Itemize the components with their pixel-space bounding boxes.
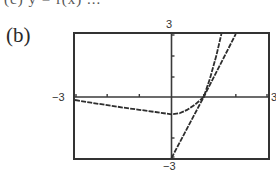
tangent-line-series — [172, 34, 236, 158]
graph-series — [75, 34, 236, 158]
curve-series — [75, 34, 221, 114]
graph-plot — [0, 0, 276, 187]
graph-axes — [75, 34, 268, 158]
